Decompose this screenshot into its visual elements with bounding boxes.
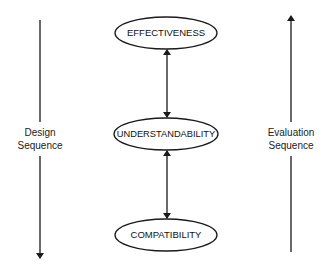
understandability-node-label: UNDERSTANDABILITY [114,128,218,140]
evaluation-sequence-label-line1: Evaluation [251,127,329,139]
compatibility-node-label: COMPATIBILITY [114,229,218,241]
design-sequence-label-line1: Design [0,127,80,139]
design-sequence-label-line2: Sequence [0,140,80,152]
evaluation-sequence-label-line2: Sequence [251,140,329,152]
effectiveness-node-label: EFFECTIVENESS [114,27,218,39]
